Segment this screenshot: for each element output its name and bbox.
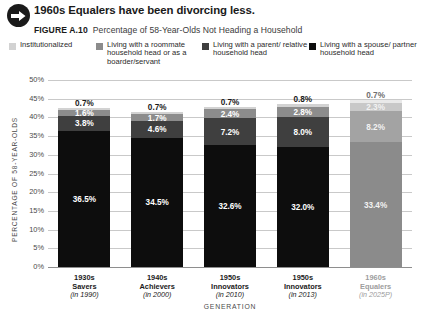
- y-axis-tick-label: 35%: [14, 131, 44, 140]
- legend-swatch-icon: [9, 43, 16, 50]
- figure-number: FIGURE A.10: [34, 25, 88, 35]
- bar-segment-value: 0.7%: [58, 99, 110, 108]
- bar-segment-value: 32.0%: [277, 203, 329, 212]
- x-axis-label: 1940sAchievers(in 2000): [123, 274, 191, 300]
- figure-title: 1960s Equalers have been divorcing less.: [34, 4, 255, 16]
- y-axis-tick-label: 5%: [14, 243, 44, 252]
- x-label-year: (in 2025P): [359, 290, 392, 299]
- x-label-year: (in 1990): [70, 290, 98, 299]
- legend-label: Living with a spouse/ partner household …: [320, 41, 422, 58]
- chart-plot-area: PERCENTAGE OF 58-YEAR-OLDS 50%45%40%35%3…: [0, 70, 417, 313]
- stacked-bar[interactable]: 0.7%1.6%3.8%36.5%: [58, 108, 110, 267]
- bar-segment-value: 36.5%: [58, 194, 110, 203]
- bar-segment-value: 32.6%: [204, 202, 256, 211]
- bar-segment[interactable]: 7.2%: [204, 118, 256, 145]
- bar-segment[interactable]: 8.2%: [350, 111, 402, 142]
- bar-segment-value: 0.8%: [277, 95, 329, 104]
- bar-segment[interactable]: 8.0%: [277, 117, 329, 147]
- bar-segment-value: 0.7%: [204, 98, 256, 107]
- y-axis-tick-label: 0%: [14, 262, 44, 271]
- bar-segment-value: 8.0%: [277, 128, 329, 137]
- bar-segment[interactable]: 33.4%: [350, 142, 402, 267]
- x-axis-label: 1950sInnovators(in 2013): [269, 274, 337, 300]
- stacked-bar[interactable]: 0.7%2.3%8.2%33.4%: [350, 100, 402, 267]
- bar-segment[interactable]: 32.6%: [204, 145, 256, 267]
- bar-segment[interactable]: 2.4%: [204, 109, 256, 118]
- bar-segment[interactable]: 2.8%: [277, 107, 329, 117]
- x-label-year: (in 2010): [216, 290, 244, 299]
- y-axis-tick-label: 15%: [14, 206, 44, 215]
- stacked-bar[interactable]: 0.8%2.8%8.0%32.0%: [277, 104, 329, 267]
- y-axis-tick-label: 50%: [14, 75, 44, 84]
- y-axis-tick-label: 45%: [14, 94, 44, 103]
- legend-label: Institutionalized: [20, 41, 100, 49]
- y-axis-tick-label: 25%: [14, 169, 44, 178]
- x-axis-title: GENERATION: [48, 303, 412, 310]
- arrow-right-circle-icon: [7, 4, 30, 27]
- x-axis-label: 1960sEqualers(in 2025P): [342, 274, 410, 300]
- figure-header: 1960s Equalers have been divorcing less.…: [0, 0, 417, 36]
- bar-segment[interactable]: 2.3%: [350, 103, 402, 112]
- legend-swatch-icon: [96, 43, 103, 50]
- bar-segment-value: 0.7%: [350, 91, 402, 100]
- bar-segment-value: 33.4%: [350, 200, 402, 209]
- stacked-bar[interactable]: 0.7%1.7%4.6%34.5%: [131, 112, 183, 267]
- y-axis-tick-label: 10%: [14, 225, 44, 234]
- bar-segment-value: 34.5%: [131, 198, 183, 207]
- bar-segment-value: 7.2%: [204, 127, 256, 136]
- legend-label: Living with a roommate household head or…: [107, 41, 203, 66]
- y-axis-tick-label: 30%: [14, 150, 44, 159]
- bar-segment[interactable]: 34.5%: [131, 138, 183, 267]
- legend-swatch-icon: [202, 43, 209, 50]
- bar-segment[interactable]: 36.5%: [58, 131, 110, 268]
- bar-segment[interactable]: 4.6%: [131, 121, 183, 138]
- bar-segment-value: 4.6%: [131, 125, 183, 134]
- bar-segment-value: 0.7%: [131, 103, 183, 112]
- legend-swatch-icon: [309, 43, 316, 50]
- chart-legend: Institutionalized Living with a roommate…: [0, 40, 417, 72]
- bar-segment-value: 2.4%: [204, 109, 256, 118]
- bar-series-group: 0.7%1.6%3.8%36.5%0.7%1.7%4.6%34.5%0.7%2.…: [48, 70, 412, 268]
- bar-segment[interactable]: 32.0%: [277, 147, 329, 267]
- y-axis-tick-label: 40%: [14, 112, 44, 121]
- x-label-year: (in 2000): [143, 290, 171, 299]
- bar-segment[interactable]: 3.8%: [58, 116, 110, 130]
- x-label-year: (in 2013): [289, 290, 317, 299]
- figure-description: Percentage of 58-Year-Olds Not Heading a…: [93, 25, 303, 35]
- bar-segment-value: 2.8%: [277, 108, 329, 117]
- figure-subline: FIGURE A.10Percentage of 58-Year-Olds No…: [34, 19, 302, 37]
- y-axis-tick-label: 20%: [14, 187, 44, 196]
- x-axis-label: 1950sInnovators(in 2010): [196, 274, 264, 300]
- bar-segment-value: 2.3%: [350, 103, 402, 112]
- bar-segment-value: 8.2%: [350, 122, 402, 131]
- legend-label: Living with a parent/ relative household…: [213, 41, 313, 58]
- bar-segment-value: 3.8%: [58, 119, 110, 128]
- x-axis-label: 1930sSavers(in 1990): [50, 274, 118, 300]
- stacked-bar[interactable]: 0.7%2.4%7.2%32.6%: [204, 107, 256, 267]
